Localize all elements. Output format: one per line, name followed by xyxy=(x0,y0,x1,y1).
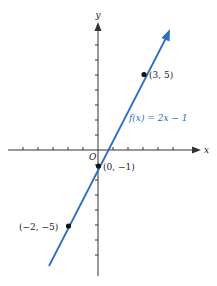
x-axis-label: x xyxy=(204,145,209,155)
y-axis: y xyxy=(95,10,102,276)
point-neg2-neg5-label: (−2, −5) xyxy=(19,222,58,232)
point-3-5-label: (3, 5) xyxy=(149,70,173,80)
origin-label: O xyxy=(89,152,97,162)
y-axis-label: y xyxy=(95,10,102,20)
point-neg2-neg5: (−2, −5) xyxy=(19,222,71,232)
function-label: f(x) = 2x − 1 xyxy=(128,113,187,123)
x-axis-arrow-icon xyxy=(192,147,201,154)
point-0-neg1-label: (0, −1) xyxy=(103,162,135,172)
function-graph: x y O f(x) = 2x − 1 xyxy=(0,0,217,286)
line-arrow-icon xyxy=(162,29,171,42)
function-line xyxy=(49,29,170,266)
y-axis-arrow-icon xyxy=(95,22,102,31)
